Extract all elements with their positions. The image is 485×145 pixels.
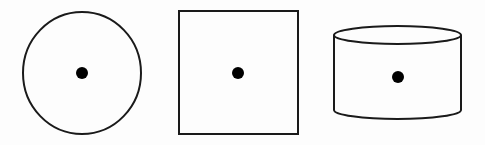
cylinder-center-dot [392, 71, 404, 83]
circle-center-dot [76, 67, 88, 79]
square-center-dot [232, 67, 244, 79]
diagram-canvas [0, 0, 485, 145]
shapes-diagram [0, 0, 485, 145]
